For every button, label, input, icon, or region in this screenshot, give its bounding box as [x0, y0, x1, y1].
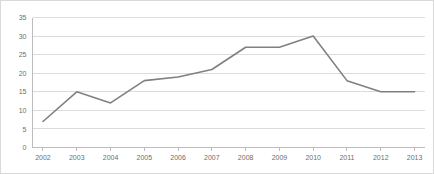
- y-axis-tick-label: 25: [19, 51, 27, 58]
- y-axis-tick-label: 15: [19, 88, 27, 95]
- line-chart-figure: 05101520253035 2002200320042005200620072…: [0, 0, 434, 174]
- x-axis-tick-label: 2002: [35, 154, 51, 161]
- y-axis-tick-label: 5: [23, 126, 27, 133]
- x-axis-tick-label: 2004: [103, 154, 119, 161]
- x-axis-tick-label: 2012: [373, 154, 389, 161]
- y-axis-tick-label: 20: [19, 70, 27, 77]
- x-axis-tick-label: 2005: [137, 154, 153, 161]
- y-axis-tick-label: 35: [19, 14, 27, 21]
- axis-lines-group: [33, 18, 426, 151]
- x-axis-tick-label: 2006: [170, 154, 186, 161]
- y-axis-tick-label: 30: [19, 33, 27, 40]
- x-axis-tick-labels: 2002200320042005200620072008200920102011…: [35, 154, 422, 161]
- x-axis-tick-label: 2003: [69, 154, 85, 161]
- x-axis-tick-label: 2007: [204, 154, 220, 161]
- x-axis-tick-label: 2013: [407, 154, 423, 161]
- gridlines-group: [33, 18, 426, 148]
- chart-plot-area: 05101520253035 2002200320042005200620072…: [1, 1, 434, 174]
- x-axis-tick-label: 2009: [272, 154, 288, 161]
- x-axis-tick-label: 2008: [238, 154, 254, 161]
- y-axis-tick-label: 0: [23, 144, 27, 151]
- y-axis-tick-labels: 05101520253035: [19, 14, 27, 151]
- x-axis-tick-label: 2011: [339, 154, 354, 161]
- data-series-group: [43, 36, 415, 121]
- y-axis-tick-label: 10: [19, 107, 27, 114]
- x-axis-tick-label: 2010: [305, 154, 321, 161]
- series-line: [43, 36, 415, 121]
